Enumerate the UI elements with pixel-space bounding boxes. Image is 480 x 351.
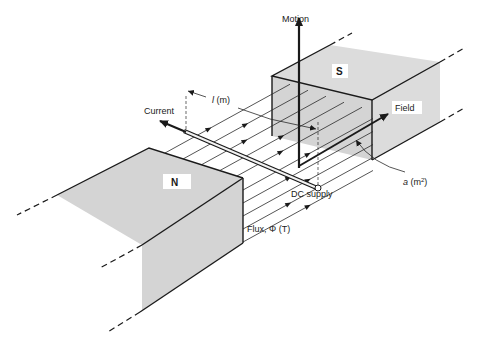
south-pole-dash-back <box>330 33 352 45</box>
current-label: Current <box>144 106 175 116</box>
north-pole-dash-mid <box>100 245 142 268</box>
flux-arrowhead <box>242 123 248 128</box>
north-pole-label: N <box>171 177 178 188</box>
area-close: ) <box>424 177 427 187</box>
south-pole-dash-top <box>440 47 466 62</box>
flux-arrowhead <box>304 205 310 210</box>
flux-arrowhead <box>241 139 247 144</box>
north-pole-dash-left <box>17 195 57 215</box>
flux-arrowhead <box>277 150 283 155</box>
motion-label: Motion <box>282 14 309 24</box>
flux-arrowhead <box>285 203 291 208</box>
length-label: l (m) <box>212 95 230 105</box>
flux-label: Flux, Φ (T) <box>247 224 290 234</box>
south-pole-dash-bottom <box>440 107 466 122</box>
north-pole-block <box>17 148 243 333</box>
current-arrow <box>160 121 186 132</box>
flux-arrowhead <box>205 127 211 132</box>
motor-principle-diagram: S N Motion Current Field l (m) DC supply… <box>0 0 480 351</box>
field-label: Field <box>395 103 415 113</box>
south-pole-label: S <box>336 66 343 77</box>
north-pole-dash-bottom <box>106 312 140 333</box>
flux-arrowhead <box>304 153 310 158</box>
area-label: a (m2) <box>403 177 427 187</box>
dc-supply-label: DC supply <box>291 189 333 199</box>
length-unit: (m) <box>214 95 230 105</box>
area-unit: (m <box>408 177 421 187</box>
